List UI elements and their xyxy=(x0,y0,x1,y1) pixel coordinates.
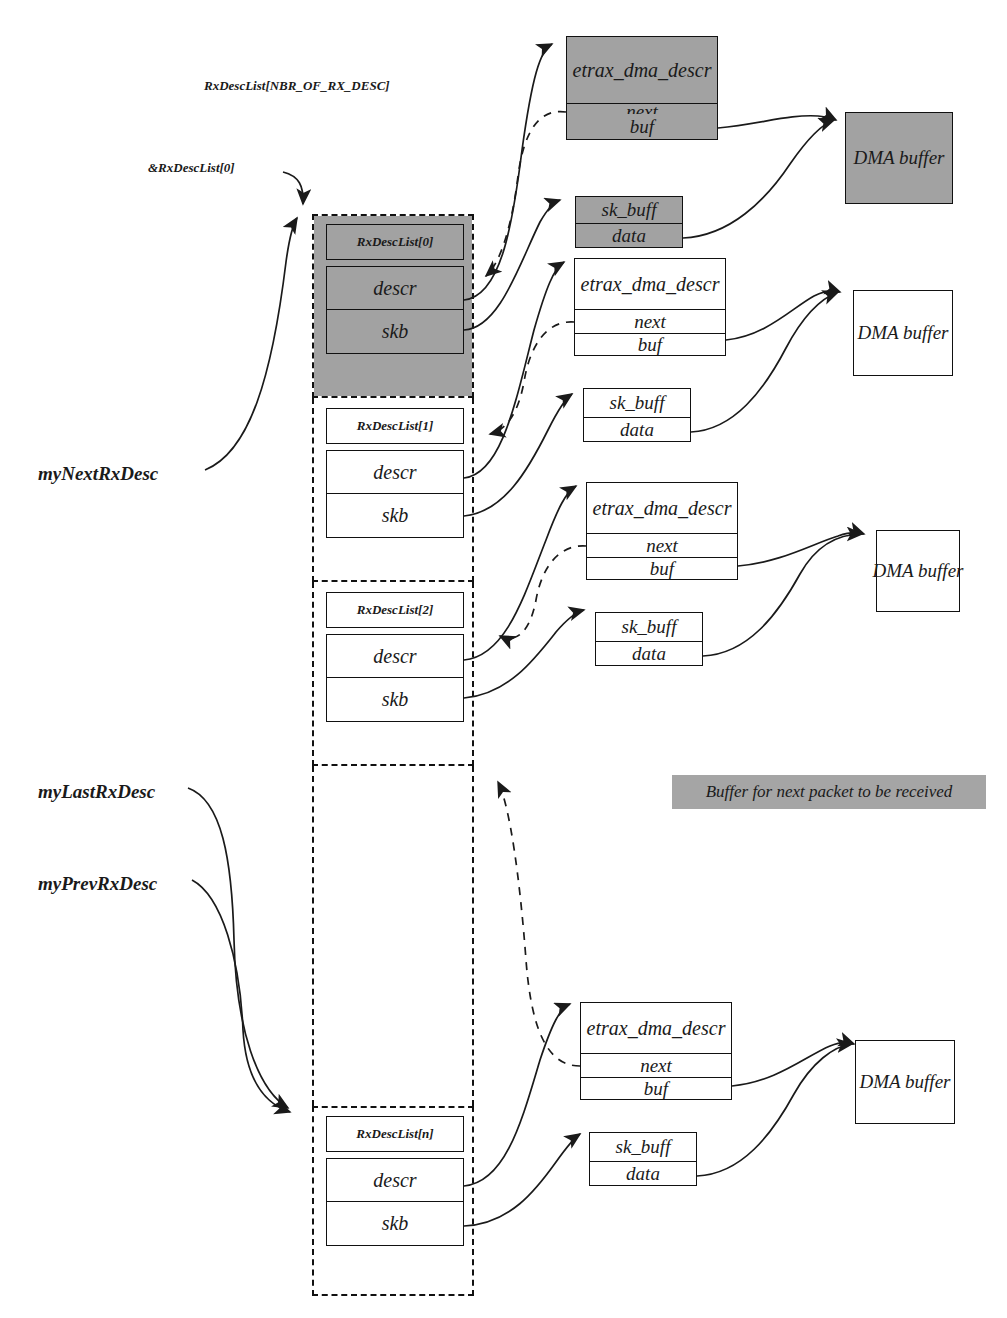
diagram-canvas: RxDescList[NBR_OF_RX_DESC] &RxDescList[0… xyxy=(0,0,1007,1318)
head-pointer-arrow xyxy=(283,172,303,204)
group-2-buf-to-dma xyxy=(738,533,864,566)
group-1-buf-to-dma xyxy=(726,291,840,340)
my-prev-rx-desc-arrow xyxy=(192,880,290,1112)
connector-layer xyxy=(0,0,1007,1318)
entry-0-descr-to-group-0 xyxy=(464,44,552,300)
my-next-rx-desc-arrow xyxy=(205,218,297,470)
group-3-data-to-dma xyxy=(697,1044,852,1176)
entry-1-skb-to-group-1-skbuff xyxy=(464,394,572,516)
group-1-data-to-dma xyxy=(691,292,838,432)
my-last-rx-desc-arrow xyxy=(188,788,288,1108)
group-0-data-to-dma xyxy=(683,120,834,238)
entry-n-descr-to-group-3 xyxy=(464,1004,570,1186)
group-0-buf-to-dma xyxy=(718,116,836,128)
group-2-data-to-dma xyxy=(703,534,862,656)
group-2-next-chain xyxy=(500,546,586,639)
next-chain-to-bottom xyxy=(498,782,580,1066)
